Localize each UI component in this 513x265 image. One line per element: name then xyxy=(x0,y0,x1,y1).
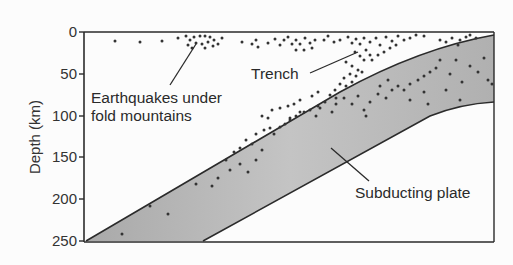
earthquake-dot xyxy=(363,37,366,40)
earthquake-dot xyxy=(469,34,472,37)
earthquake-dot xyxy=(469,65,472,68)
earthquake-dot xyxy=(212,45,215,48)
earthquake-dot xyxy=(445,89,448,92)
earthquake-dot xyxy=(387,79,390,82)
earthquake-dot xyxy=(349,73,352,76)
earthquake-dot xyxy=(345,61,348,64)
earthquake-dot xyxy=(331,111,334,114)
earthquake-dot xyxy=(327,35,330,38)
earthquake-dot xyxy=(315,115,318,118)
earthquake-dot xyxy=(423,75,426,78)
y-tick-50: 50 xyxy=(60,65,77,82)
earthquake-dot xyxy=(207,41,210,44)
earthquake-dot xyxy=(291,43,294,46)
earthquake-dot xyxy=(379,85,382,88)
earthquake-dot xyxy=(334,89,337,92)
earthquake-dot xyxy=(283,39,286,42)
earthquake-dot xyxy=(273,133,276,136)
earthquake-dot xyxy=(284,123,287,126)
earthquake-dot xyxy=(339,83,342,86)
label-subducting-plate: Subducting plate xyxy=(355,184,470,201)
label-earthquakes-line2: fold mountains xyxy=(91,107,192,124)
earthquake-dot xyxy=(409,37,412,40)
earthquake-dot xyxy=(477,71,480,74)
earthquake-dot xyxy=(139,41,142,44)
earthquake-dot xyxy=(211,185,214,188)
earthquake-dot xyxy=(369,54,372,57)
earthquake-dot xyxy=(427,103,430,106)
earthquake-dot xyxy=(267,42,270,45)
earthquake-dot xyxy=(347,36,350,39)
earthquake-dot xyxy=(397,85,400,88)
earthquake-dot xyxy=(324,101,327,104)
earthquake-dot xyxy=(329,94,332,97)
earthquake-dot xyxy=(204,35,207,38)
earthquake-dot xyxy=(311,95,314,98)
earthquake-dot xyxy=(369,41,372,44)
earthquake-dot xyxy=(149,205,152,208)
earthquake-dot xyxy=(263,129,266,132)
earthquake-dot xyxy=(365,49,368,52)
earthquake-dot xyxy=(351,65,354,68)
earthquake-dot xyxy=(121,233,124,236)
earthquake-dot xyxy=(491,83,494,86)
earthquake-dot xyxy=(359,55,362,58)
earthquake-dot xyxy=(201,43,204,46)
earthquake-dot xyxy=(299,43,302,46)
earthquake-dot xyxy=(435,67,438,70)
earthquake-dot xyxy=(333,41,336,44)
earthquake-dot xyxy=(403,89,406,92)
earthquake-dot xyxy=(415,34,418,37)
earthquake-dot xyxy=(439,39,442,42)
earthquake-dot xyxy=(375,37,378,40)
earthquakes-leader-line xyxy=(170,44,196,85)
y-tick-200: 200 xyxy=(52,190,77,207)
y-axis-title: Depth (km) xyxy=(26,100,43,174)
earthquake-dot xyxy=(251,143,254,146)
earthquake-dot xyxy=(449,73,452,76)
earthquake-dot xyxy=(343,97,346,100)
earthquake-dot xyxy=(177,37,180,40)
y-tick-100: 100 xyxy=(52,107,77,124)
earthquake-dot xyxy=(355,75,358,78)
earthquake-dot xyxy=(403,39,406,42)
earthquake-dot xyxy=(439,59,442,62)
earthquake-dot xyxy=(397,35,400,38)
earthquake-dot xyxy=(377,54,380,57)
earthquake-dot xyxy=(267,117,270,120)
earthquake-dot xyxy=(309,42,312,45)
earthquake-dot xyxy=(445,41,448,44)
earthquake-dot xyxy=(295,49,298,52)
earthquake-dot xyxy=(247,171,250,174)
earthquake-dot xyxy=(261,115,264,118)
earthquake-dot xyxy=(279,126,282,129)
earthquake-dot xyxy=(365,115,368,118)
earthquake-dot xyxy=(311,47,314,50)
earthquake-dot xyxy=(363,59,366,62)
earthquake-dot xyxy=(361,71,364,74)
diagram-canvas: 0 50 100 150 200 250 Depth (km) Earthqua… xyxy=(0,0,513,265)
y-tick-0: 0 xyxy=(69,23,77,40)
earthquake-dot xyxy=(187,44,190,47)
earthquake-dot xyxy=(193,36,196,39)
earthquake-dot xyxy=(383,51,386,54)
earthquake-dot xyxy=(217,177,220,180)
earthquake-dot xyxy=(279,44,282,47)
earthquake-dot xyxy=(455,59,458,62)
earthquake-dot xyxy=(475,37,478,40)
earthquake-dot xyxy=(391,40,394,43)
earthquake-dot xyxy=(385,36,388,39)
earthquake-dot xyxy=(189,39,192,42)
earthquake-dot xyxy=(314,39,317,42)
earthquake-dot xyxy=(395,44,398,47)
earthquake-dot xyxy=(423,91,426,94)
earthquake-dot xyxy=(465,36,468,39)
earthquake-dot xyxy=(357,95,360,98)
earthquake-dot xyxy=(335,97,338,100)
earthquake-dot xyxy=(185,35,188,38)
earthquake-dot xyxy=(451,37,454,40)
earthquake-dot xyxy=(357,69,360,72)
earthquake-dot xyxy=(287,105,290,108)
earthquake-dot xyxy=(351,81,354,84)
earthquake-dot xyxy=(209,36,212,39)
